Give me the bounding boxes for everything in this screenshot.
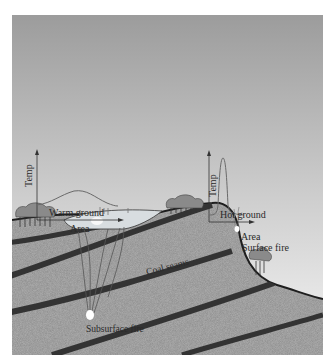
subsurface-fire-label: Subsurface fire xyxy=(86,324,144,334)
surface-fire-label: Surface fire xyxy=(242,242,289,253)
left-chart-curve-label: Warm ground xyxy=(49,207,104,218)
left-chart-y-label: Temp xyxy=(23,164,34,187)
diagram-frame: Temp Warm ground Area Temp Hot ground Ar… xyxy=(12,15,323,355)
subsurface-fire-glow xyxy=(86,310,94,320)
right-chart-x-label: Area xyxy=(241,231,261,242)
left-chart-x-label: Area xyxy=(70,223,90,234)
coal-fire-diagram: Temp Warm ground Area Temp Hot ground Ar… xyxy=(12,15,323,355)
right-chart-y-label: Temp xyxy=(207,174,218,197)
right-chart-curve-label: Hot ground xyxy=(220,209,266,220)
